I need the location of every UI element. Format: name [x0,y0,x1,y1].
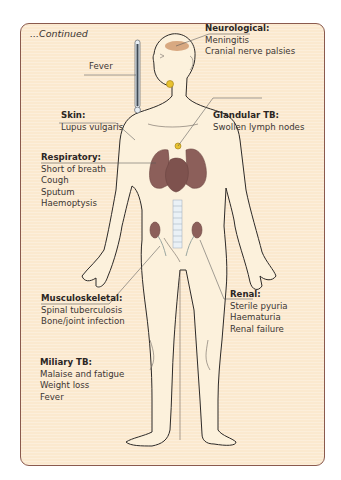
skin-heading: Skin: [61,110,123,122]
thermometer-icon [135,40,141,113]
fever-text: Fever [89,61,113,73]
label-miliary-tb: Miliary TB: Malaise and fatigue Weight l… [40,357,124,403]
label-skin: Skin: Lupus vulgaris [61,110,123,133]
renal-item: Sterile pyuria [230,301,288,313]
respiratory-item: Sputum [41,187,106,199]
miliary-item: Malaise and fatigue [40,369,124,381]
glandular-heading: Glandular TB: [213,110,304,122]
miliary-item: Fever [40,392,124,404]
respiratory-item: Cough [41,175,106,187]
neurological-item: Cranial nerve palsies [205,46,295,58]
renal-item: Haematuria [230,312,288,324]
musculoskeletal-item: Spinal tuberculosis [41,305,125,317]
label-renal: Renal: Sterile pyuria Haematuria Renal f… [230,289,288,335]
label-fever: Fever [89,61,113,73]
lymph-node-neck [167,81,174,88]
miliary-item: Weight loss [40,380,124,392]
human-body-figure [0,0,341,480]
label-glandular-tb: Glandular TB: Swollen lymph nodes [213,110,304,133]
renal-heading: Renal: [230,289,288,301]
skin-item: Lupus vulgaris [61,122,123,134]
label-musculoskeletal: Musculoskeletal: Spinal tuberculosis Bon… [41,293,125,328]
renal-item: Renal failure [230,324,288,336]
glandular-item: Swollen lymph nodes [213,122,304,134]
musculoskeletal-heading: Musculoskeletal: [41,293,125,305]
respiratory-heading: Respiratory: [41,152,106,164]
miliary-heading: Miliary TB: [40,357,124,369]
label-neurological: Neurological: Meningitis Cranial nerve p… [205,23,295,58]
label-respiratory: Respiratory: Short of breath Cough Sputu… [41,152,106,210]
musculoskeletal-item: Bone/joint infection [41,316,125,328]
respiratory-item: Haemoptysis [41,198,106,210]
neurological-item: Meningitis [205,35,295,47]
respiratory-item: Short of breath [41,164,106,176]
neurological-heading: Neurological: [205,23,295,35]
spine [173,200,182,248]
